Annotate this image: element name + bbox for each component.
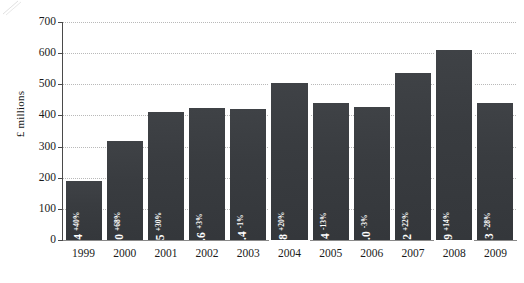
bar-value: 440.3 xyxy=(483,233,495,240)
x-axis-tick-label: 2007 xyxy=(392,245,433,261)
x-axis-tick-label: 2002 xyxy=(187,245,228,261)
bar[interactable]: 424.6+3% xyxy=(189,108,225,240)
bar[interactable]: 504.8+20% xyxy=(271,83,307,240)
y-axis-tick-label: 700 xyxy=(10,16,56,28)
bar-change-percent: +20% xyxy=(277,212,286,231)
x-axis-line xyxy=(62,240,517,241)
y-axis-tick-labels: 7006005004003002001000 xyxy=(8,22,56,240)
y-axis-tick-label: 200 xyxy=(10,172,56,184)
bar-value-label: 609.9+14% xyxy=(442,212,454,240)
plot-area: 188.4+40%317.0+68%411.5+30%424.6+3%420.4… xyxy=(63,22,516,240)
bar[interactable]: 609.9+14% xyxy=(436,50,472,240)
x-axis-tick-label: 2003 xyxy=(228,245,269,261)
bar-change-percent: -3% xyxy=(360,214,369,228)
x-axis-tick-label: 1999 xyxy=(63,245,104,261)
x-axis-tick-label: 2004 xyxy=(269,245,310,261)
bar-value-label: 440.3-28% xyxy=(483,213,495,240)
bar-value: 424.6 xyxy=(195,232,207,240)
y-axis-tick-label: 0 xyxy=(10,234,56,246)
y-axis-tick xyxy=(58,115,63,116)
y-axis-tick-label: 100 xyxy=(10,203,56,215)
x-axis-tick-label: 2009 xyxy=(475,245,516,261)
y-axis-tick-label: 500 xyxy=(10,78,56,90)
bar-value: 420.4 xyxy=(236,231,248,240)
y-axis-tick xyxy=(58,240,63,241)
bar-value: 411.5 xyxy=(154,234,166,240)
bar[interactable]: 411.5+30% xyxy=(148,112,184,240)
bar-value-label: 427.0-3% xyxy=(360,214,372,240)
bar[interactable]: 535.2+22% xyxy=(395,73,431,240)
bar-value-label: 317.0+68% xyxy=(113,212,125,240)
y-axis-tick-label: 300 xyxy=(10,141,56,153)
bar-change-percent: +68% xyxy=(113,212,122,231)
bar-value: 427.0 xyxy=(360,231,372,240)
x-axis-tick-label: 2001 xyxy=(145,245,186,261)
bar-change-percent: +30% xyxy=(154,212,163,231)
x-axis-tick-label: 2000 xyxy=(104,245,145,261)
x-axis-tick-labels: 1999200020012002200320042005200620072008… xyxy=(63,245,516,263)
bar-value: 535.2 xyxy=(401,234,413,240)
y-axis-tick-label: 600 xyxy=(10,47,56,59)
y-axis-tick-label: 400 xyxy=(10,109,56,121)
bar-value: 609.9 xyxy=(442,234,454,240)
y-axis-tick xyxy=(58,178,63,179)
bar[interactable]: 439.4-13% xyxy=(313,103,349,240)
x-axis-tick-label: 2006 xyxy=(351,245,392,261)
bar-value: 317.0 xyxy=(113,234,125,240)
x-axis-tick-label: 2005 xyxy=(310,245,351,261)
bar-value-label: 411.5+30% xyxy=(154,212,166,240)
bar-change-percent: +14% xyxy=(442,212,451,231)
y-axis-tick xyxy=(58,147,63,148)
bar-change-percent: +40% xyxy=(72,212,81,231)
y-axis-tick xyxy=(58,22,63,23)
y-axis-tick xyxy=(58,84,63,85)
bar-value-label: 420.4-1% xyxy=(236,214,248,240)
bar-change-percent: +22% xyxy=(401,212,410,231)
bar-value-label: 535.2+22% xyxy=(401,212,413,240)
gridline xyxy=(63,22,516,23)
bar-change-percent: -1% xyxy=(236,214,245,228)
bar-value: 188.4 xyxy=(72,234,84,240)
bar-chart: £ millions 7006005004003002001000 188.4+… xyxy=(0,0,524,283)
bar-value-label: 504.8+20% xyxy=(277,212,289,240)
x-axis-tick-label: 2008 xyxy=(434,245,475,261)
bar-value-label: 439.4-13% xyxy=(319,213,331,240)
bar[interactable]: 440.3-28% xyxy=(477,103,513,240)
bar-value: 439.4 xyxy=(319,233,331,240)
bar-change-percent: -28% xyxy=(483,213,492,231)
y-axis-tick xyxy=(58,53,63,54)
bar-change-percent: -13% xyxy=(319,213,328,231)
bar[interactable]: 420.4-1% xyxy=(230,109,266,240)
bar-value-label: 424.6+3% xyxy=(195,214,207,240)
y-axis-tick xyxy=(58,209,63,210)
bar[interactable]: 188.4+40% xyxy=(66,181,102,240)
bar-value: 504.8 xyxy=(277,234,289,240)
bar[interactable]: 317.0+68% xyxy=(107,141,143,240)
bar-value-label: 188.4+40% xyxy=(72,212,84,240)
bar-change-percent: +3% xyxy=(195,214,204,230)
bar[interactable]: 427.0-3% xyxy=(354,107,390,240)
